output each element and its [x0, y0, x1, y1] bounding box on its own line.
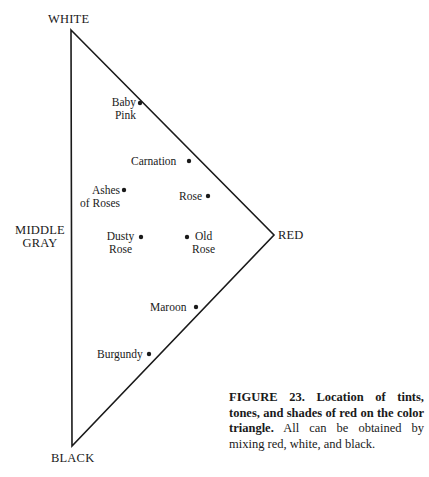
vertex-label-black: BLACK — [51, 452, 94, 465]
label-old-rose: Old Rose — [192, 230, 215, 256]
dot-dusty-rose — [139, 235, 143, 239]
label-line: Old — [192, 230, 215, 243]
dot-old-rose — [185, 235, 189, 239]
color-triangle — [71, 30, 274, 446]
label-baby-pink: Baby Pink — [108, 96, 136, 122]
label-line: Baby — [108, 96, 136, 109]
point-dots — [122, 101, 210, 356]
side-label-middle-gray: MIDDLE GRAY — [14, 224, 66, 250]
dot-carnation — [187, 159, 191, 163]
vertex-label-red: RED — [278, 229, 304, 242]
label-line: of Roses — [73, 197, 120, 210]
label-line: Pink — [108, 109, 136, 122]
label-line: Rose — [105, 243, 136, 256]
label-line: Dusty — [105, 230, 136, 243]
label-ashes-of-roses: Ashes of Roses — [83, 184, 120, 210]
figure-caption: FIGURE 23. Location of tints, tones, and… — [229, 390, 424, 452]
side-label-line2: GRAY — [14, 237, 66, 250]
label-line: Ashes — [83, 184, 120, 197]
label-dusty-rose: Dusty Rose — [105, 230, 136, 256]
dot-burgundy — [147, 352, 151, 356]
dot-ashes-of-roses — [122, 188, 126, 192]
label-rose: Rose — [179, 190, 202, 203]
dot-maroon — [194, 305, 198, 309]
label-line: Rose — [192, 243, 215, 256]
label-burgundy: Burgundy — [97, 348, 143, 361]
label-carnation: Carnation — [131, 155, 176, 168]
vertex-label-white: WHITE — [48, 13, 89, 26]
label-maroon: Maroon — [150, 301, 186, 314]
dot-rose — [206, 194, 210, 198]
dot-baby-pink — [138, 101, 142, 105]
